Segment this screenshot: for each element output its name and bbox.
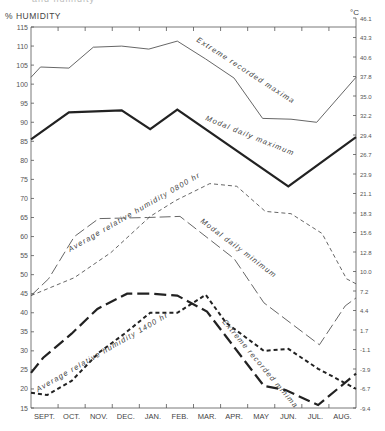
x-tick-label: JAN. bbox=[145, 412, 161, 421]
y2-tick-label: 21.1 bbox=[360, 191, 372, 197]
y2-tick-label: 15.6 bbox=[360, 230, 372, 236]
x-tick-label: SEPT. bbox=[34, 412, 55, 421]
y-tick-label: 75 bbox=[20, 176, 28, 183]
y2-tick-label: -6.7 bbox=[360, 386, 371, 392]
y2-tick-label: -1.1 bbox=[360, 347, 371, 353]
y-tick-label: 35 bbox=[20, 328, 28, 335]
y-tick-label: 70 bbox=[20, 195, 28, 202]
y-tick-label: 110 bbox=[17, 43, 28, 50]
y-tick-label: 25 bbox=[20, 366, 28, 373]
x-tick-label: FEB. bbox=[172, 412, 189, 421]
y-tick-label: 115 bbox=[17, 24, 28, 31]
y2-tick-label: 10.0 bbox=[360, 269, 372, 275]
y2-tick-label: 29.4 bbox=[360, 133, 372, 139]
x-tick-label: OCT. bbox=[63, 412, 80, 421]
x-tick-label: NOV. bbox=[90, 412, 108, 421]
x-tick-label: MAY bbox=[253, 412, 269, 421]
x-tick-label: JUL. bbox=[308, 412, 323, 421]
series-line-average-relative-humidity-1400-hr bbox=[31, 295, 356, 395]
series-labels: Extreme recorded maximaModal daily maxim… bbox=[34, 35, 301, 410]
series-line-extreme-recorded-maxima bbox=[31, 41, 356, 122]
x-tick-label: AUG. bbox=[333, 412, 351, 421]
chart-series bbox=[31, 41, 356, 405]
series-label: Extreme recorded minima bbox=[220, 318, 300, 411]
y2-tick-label: -3.9 bbox=[360, 367, 371, 373]
y2-tick-label: 32.2 bbox=[360, 113, 372, 119]
x-tick-label: APR. bbox=[225, 412, 243, 421]
y-tick-label: 100 bbox=[16, 81, 28, 88]
y-tick-label: 40 bbox=[20, 309, 28, 316]
y-tick-label: 20 bbox=[20, 385, 28, 392]
series-label: Average relative humidity 0800 hr bbox=[66, 170, 202, 254]
y-tick-label: 15 bbox=[20, 405, 28, 412]
y-tick-label: 80 bbox=[20, 157, 28, 164]
y2-tick-label: 43.3 bbox=[360, 35, 372, 41]
y2-tick-label: 26.7 bbox=[360, 152, 372, 158]
y2-tick-label: 46.1 bbox=[360, 16, 372, 22]
y-tick-label: 50 bbox=[20, 271, 28, 278]
y-tick-label: 30 bbox=[20, 347, 28, 354]
y2-tick-label: 23.9 bbox=[360, 172, 372, 178]
y-tick-label: 85 bbox=[20, 138, 28, 145]
y2-tick-label: -9.4 bbox=[360, 406, 371, 412]
y-tick-label: 95 bbox=[20, 100, 28, 107]
chart-axes: 1520253035404550556065707580859095100105… bbox=[16, 16, 372, 422]
y2-tick-label: 37.8 bbox=[360, 74, 372, 80]
y2-tick-label: 7.2 bbox=[360, 289, 369, 295]
x-tick-label: MAR. bbox=[198, 412, 217, 421]
y2-tick-label: 35.0 bbox=[360, 94, 372, 100]
series-label: Modal daily minimum bbox=[199, 216, 279, 279]
y2-tick-label: 4.4 bbox=[360, 308, 369, 314]
y-tick-label: 90 bbox=[20, 119, 28, 126]
y2-tick-label: 12.8 bbox=[360, 250, 372, 256]
y2-tick-label: 18.3 bbox=[360, 211, 372, 217]
series-label: Average relative humidity 1400 hr bbox=[34, 310, 170, 394]
y-tick-label: 55 bbox=[20, 252, 28, 259]
humidity-temperature-chart: 1520253035404550556065707580859095100105… bbox=[0, 0, 385, 431]
y2-tick-label: 1.7 bbox=[360, 328, 369, 334]
series-label: Modal daily maximum bbox=[204, 114, 296, 158]
y-tick-label: 60 bbox=[20, 233, 28, 240]
x-tick-label: DEC. bbox=[117, 412, 135, 421]
y-tick-label: 105 bbox=[16, 62, 28, 69]
y-tick-label: 65 bbox=[20, 214, 28, 221]
y-tick-label: 45 bbox=[20, 290, 28, 297]
series-line-extreme-recorded-minima bbox=[31, 294, 356, 405]
y2-tick-label: 40.6 bbox=[360, 55, 372, 61]
x-tick-label: JUN. bbox=[280, 412, 297, 421]
